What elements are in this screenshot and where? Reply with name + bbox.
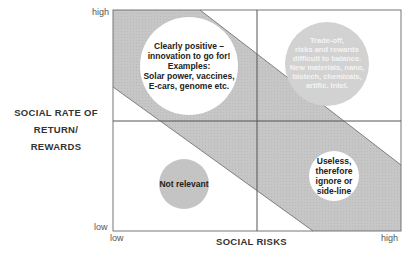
text-trade-off: Trade-off, risks and rewards difficult t…: [285, 36, 369, 90]
text-line: Not relevant: [154, 179, 214, 189]
text-line: innovation to go for!: [139, 51, 239, 61]
text-line: Useless,: [304, 156, 364, 166]
y-axis-title: SOCIAL RATE OF RETURN/ REWARDS: [8, 104, 104, 155]
text-useless: Useless, therefore ignore or side-line: [304, 156, 364, 196]
y-tick-high: high: [92, 7, 109, 17]
text-line: artific. Intel.: [285, 81, 369, 90]
text-line: Solar power, vaccines,: [139, 71, 239, 81]
y-axis-title-line1: SOCIAL RATE OF: [8, 104, 104, 121]
text-line: Trade-off,: [285, 36, 369, 45]
x-tick-low: low: [110, 233, 124, 243]
text-clearly-positive: Clearly positive – innovation to go for!…: [139, 41, 239, 91]
x-axis-title: SOCIAL RISKS: [216, 236, 287, 247]
y-axis-title-line2: RETURN/ REWARDS: [8, 121, 104, 155]
text-line: side-line: [304, 186, 364, 196]
text-line: Clearly positive –: [139, 41, 239, 51]
text-line: biotech, chemicals,: [285, 72, 369, 81]
text-line: difficult to balance.: [285, 54, 369, 63]
text-line: ignore or: [304, 176, 364, 186]
text-line: risks and rewards: [285, 45, 369, 54]
text-not-relevant: Not relevant: [154, 179, 214, 189]
text-line: Examples:: [139, 61, 239, 71]
y-tick-low: low: [94, 222, 108, 232]
text-line: E-cars, genome etc.: [139, 81, 239, 91]
text-line: New materials, nano,: [285, 63, 369, 72]
x-tick-high: high: [381, 233, 398, 243]
text-line: therefore: [304, 166, 364, 176]
